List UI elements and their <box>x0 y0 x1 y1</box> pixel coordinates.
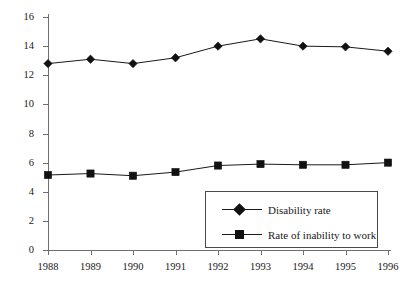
legend-label-inability-to-work: Rate of inability to work <box>268 229 376 241</box>
legend-item-inability-to-work: Rate of inability to work <box>206 227 377 243</box>
data-point-diamond <box>384 47 392 55</box>
data-point-diamond <box>129 59 137 67</box>
data-point-diamond <box>256 35 264 43</box>
data-point-square <box>384 159 391 166</box>
chart-legend: Disability rate Rate of inability to wor… <box>205 191 378 248</box>
data-point-square <box>342 161 349 168</box>
series-disability-rate <box>44 35 392 68</box>
data-point-diamond <box>341 43 349 51</box>
line-chart: Percent 1614121086420 198819891990199119… <box>0 0 403 289</box>
data-point-square <box>214 162 221 169</box>
series-rate-of-inability-to-work <box>44 159 391 179</box>
data-point-diamond <box>171 54 179 62</box>
data-point-square <box>299 161 306 168</box>
data-point-diamond <box>86 55 94 63</box>
data-point-square <box>44 171 51 178</box>
data-point-diamond <box>214 42 222 50</box>
diamond-marker-icon <box>220 203 264 217</box>
data-point-diamond <box>44 59 52 67</box>
data-point-square <box>129 172 136 179</box>
legend-item-disability-rate: Disability rate <box>206 202 377 218</box>
legend-label-disability-rate: Disability rate <box>268 204 331 216</box>
square-marker-icon <box>220 228 264 242</box>
data-point-square <box>87 170 94 177</box>
data-point-diamond <box>299 42 307 50</box>
data-point-square <box>257 160 264 167</box>
data-point-square <box>172 168 179 175</box>
